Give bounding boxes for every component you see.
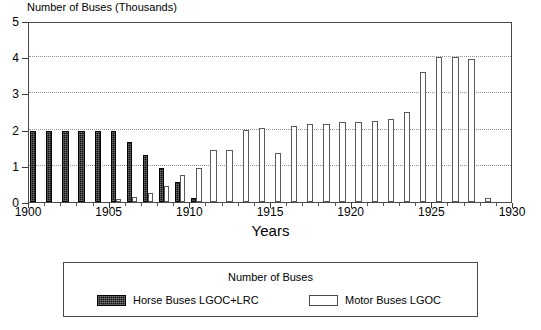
bar-motor-buses xyxy=(291,126,297,202)
bar-motor-buses xyxy=(148,193,153,202)
y-axis-tick-label: 4 xyxy=(0,52,19,64)
bar-motor-buses xyxy=(164,186,169,202)
legend-title: Number of Buses xyxy=(64,271,477,284)
x-axis-tick-minor xyxy=(222,203,223,206)
bar-motor-buses xyxy=(355,122,361,202)
x-axis-tick-label: 1915 xyxy=(247,205,293,219)
x-axis-tick-minor xyxy=(383,203,384,206)
bar-motor-buses xyxy=(323,124,329,202)
x-axis-tick-label: 1905 xyxy=(86,205,132,219)
y-axis-tick-label: 5 xyxy=(0,16,19,28)
y-axis-tick-label: 3 xyxy=(0,88,19,100)
bar-motor-buses xyxy=(404,112,410,203)
legend-swatch-motor-buses xyxy=(309,295,338,306)
x-axis-title: Years xyxy=(0,222,541,240)
x-axis-tick-label: 1910 xyxy=(166,205,212,219)
bar-motor-buses xyxy=(485,198,491,202)
bar-motor-buses xyxy=(339,122,345,202)
y-axis-tick-label: 1 xyxy=(0,161,19,173)
legend-entry-motor-buses: Motor Buses LGOC xyxy=(309,294,441,307)
x-axis-tick-minor xyxy=(76,203,77,206)
x-axis-tick-minor xyxy=(157,203,158,206)
x-axis-tick-minor xyxy=(464,203,465,206)
bar-horse-buses xyxy=(78,131,84,202)
legend-swatch-horse-buses xyxy=(97,295,126,306)
plot-area xyxy=(28,22,512,203)
bar-horse-buses xyxy=(46,131,52,202)
x-axis-tick-label: 1920 xyxy=(328,205,374,219)
legend: Number of Buses Horse Buses LGOC+LRC Mot… xyxy=(63,262,478,317)
bar-motor-buses xyxy=(468,59,474,202)
bar-motor-buses xyxy=(420,72,426,202)
bar-horse-buses xyxy=(30,131,36,202)
bar-motor-buses xyxy=(243,130,249,202)
bar-horse-buses xyxy=(62,131,68,202)
bar-motor-buses xyxy=(259,128,265,202)
chart-title: Number of Buses (Thousands) xyxy=(27,1,177,14)
legend-label-horse-buses: Horse Buses LGOC+LRC xyxy=(133,294,259,307)
bar-horse-buses xyxy=(111,131,116,202)
legend-entry-horse-buses: Horse Buses LGOC+LRC xyxy=(97,294,259,307)
bar-motor-buses xyxy=(452,57,458,202)
x-axis-tick-minor xyxy=(399,203,400,206)
x-axis-tick-minor xyxy=(302,203,303,206)
bar-motor-buses xyxy=(275,153,281,202)
x-axis-tick-minor xyxy=(141,203,142,206)
bar-motor-buses xyxy=(180,175,185,202)
bar-motor-buses xyxy=(196,168,201,202)
x-axis-tick-minor xyxy=(238,203,239,206)
bar-motor-buses xyxy=(388,119,394,202)
bar-motor-buses xyxy=(210,150,216,202)
x-axis-tick-minor xyxy=(480,203,481,206)
bar-horse-buses xyxy=(127,142,132,202)
bar-motor-buses xyxy=(436,57,442,202)
x-axis-tick-minor xyxy=(318,203,319,206)
x-axis-tick-label: 1925 xyxy=(408,205,454,219)
x-axis-tick-minor xyxy=(60,203,61,206)
x-axis-tick-label: 1930 xyxy=(489,205,535,219)
x-axis-tick-label: 1900 xyxy=(5,205,51,219)
y-axis-tick-label: 2 xyxy=(0,125,19,137)
bar-motor-buses xyxy=(372,121,378,202)
bar-motor-buses xyxy=(226,150,232,202)
legend-label-motor-buses: Motor Buses LGOC xyxy=(345,294,441,307)
bar-motor-buses xyxy=(116,199,121,202)
bar-motor-buses xyxy=(307,124,313,202)
bar-motor-buses xyxy=(132,197,137,202)
bar-horse-buses xyxy=(95,131,101,202)
